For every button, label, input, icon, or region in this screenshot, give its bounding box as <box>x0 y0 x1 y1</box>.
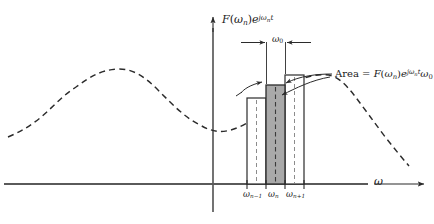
figure-canvas <box>0 0 434 224</box>
figure-container: F(ωn)ejωnt ω ω0 Area = F(ωn)ejωntω0 ωn−1… <box>0 0 434 224</box>
area-annotation: Area = F(ωn)ejωntω0 <box>335 69 433 80</box>
area-leader-left-tail <box>236 92 242 96</box>
y-axis-label-exp-t: t <box>270 13 273 22</box>
bar-n-shaded <box>266 85 285 184</box>
tick-label-n-plus-1: ωn+1 <box>286 190 305 200</box>
tick-label-n-sub: n <box>275 193 279 199</box>
tick-label-n-minus-1-sub: n−1 <box>250 193 262 199</box>
y-axis-label-F: F <box>222 13 230 26</box>
area-annotation-omega: ω <box>385 68 393 79</box>
tick-label-n-minus-1-omega: ω <box>243 189 250 199</box>
spectrum-curve <box>8 69 409 166</box>
bar-n-plus-1 <box>285 75 304 184</box>
y-axis-label-omega: ω <box>234 13 243 26</box>
bar-n-minus-1 <box>247 98 266 184</box>
tick-label-n-omega: ω <box>268 189 275 199</box>
area-annotation-trailing-sub: 0 <box>428 73 432 81</box>
tick-label-n-plus-1-omega: ω <box>286 189 293 199</box>
envelope-dashed-curve <box>8 69 409 166</box>
rect-strips-group <box>247 75 304 184</box>
tick-label-n-minus-1: ωn−1 <box>243 190 262 200</box>
y-axis-label: F(ωn)ejωnt <box>222 14 273 27</box>
omega0-label: ω0 <box>272 35 283 44</box>
area-annotation-prefix: Area <box>335 68 359 79</box>
x-axis-label: ω <box>374 176 383 187</box>
tick-label-n: ωn <box>268 190 279 200</box>
area-leader-left <box>241 82 262 93</box>
x-axis-label-omega: ω <box>374 175 383 188</box>
area-annotation-F: F <box>374 68 381 79</box>
area-annotation-equals: = <box>362 68 370 79</box>
tick-label-n-plus-1-sub: n+1 <box>293 193 305 199</box>
omega0-label-sub: 0 <box>279 37 283 44</box>
